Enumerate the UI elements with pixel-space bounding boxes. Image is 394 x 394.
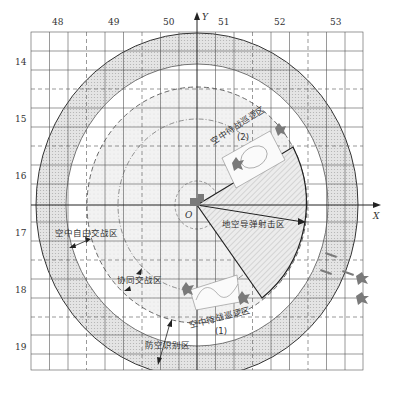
coordinated-engagement-label: 协同交战区 bbox=[117, 275, 162, 285]
origin-label: O bbox=[185, 210, 193, 220]
patrol-zone-1-number: (1) bbox=[215, 326, 227, 336]
x-axis-label: X bbox=[372, 211, 380, 221]
svg-text:14: 14 bbox=[15, 57, 27, 67]
patrol-zone-2-number: (2) bbox=[237, 132, 249, 142]
svg-text:52: 52 bbox=[274, 17, 285, 27]
svg-text:51: 51 bbox=[218, 17, 229, 27]
y-axis-label: Y bbox=[202, 12, 209, 22]
identification-label: 防空识别区 bbox=[145, 340, 190, 350]
svg-text:49: 49 bbox=[108, 17, 120, 27]
free-engagement-label: 空中自由交战区 bbox=[55, 228, 118, 238]
left-tick-labels: 14 15 16 17 18 19 bbox=[15, 57, 27, 352]
svg-text:15: 15 bbox=[15, 114, 27, 124]
svg-text:53: 53 bbox=[330, 17, 342, 27]
sam-zone-label: 地空导弹射击区 bbox=[222, 219, 285, 229]
svg-text:17: 17 bbox=[15, 228, 27, 238]
svg-text:19: 19 bbox=[15, 342, 27, 352]
svg-text:18: 18 bbox=[15, 285, 27, 295]
svg-text:16: 16 bbox=[15, 171, 27, 181]
svg-text:48: 48 bbox=[52, 17, 64, 27]
air-defense-diagram: X Y O 48 49 50 51 52 53 14 15 16 17 18 1… bbox=[0, 0, 394, 394]
svg-text:50: 50 bbox=[163, 17, 175, 27]
